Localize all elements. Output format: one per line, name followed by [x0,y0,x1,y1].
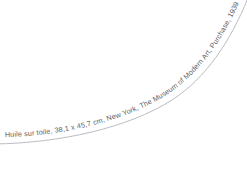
curved-caption-svg: Huile sur toile, 38,1 x 45,7 cm, New Yor… [0,0,247,172]
arc-line [0,0,247,144]
caption-text: Huile sur toile, 38,1 x 45,7 cm, New Yor… [5,0,241,139]
artwork-caption-figure: Huile sur toile, 38,1 x 45,7 cm, New Yor… [0,0,247,172]
caption-textpath: Huile sur toile, 38,1 x 45,7 cm, New Yor… [5,0,241,139]
